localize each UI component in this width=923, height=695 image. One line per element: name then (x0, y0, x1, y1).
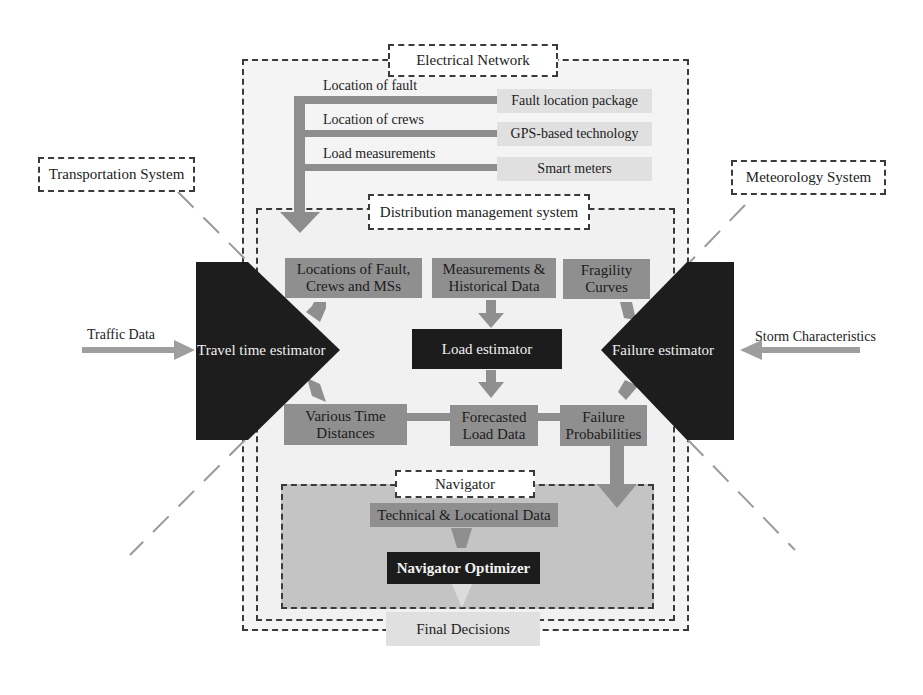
source-smart-meters: Smart meters (497, 157, 652, 181)
electrical-network-label: Electrical Network (388, 44, 558, 77)
forecasted-load-box: Forecasted Load Data (450, 405, 538, 446)
signal-load-measurements: Load measurements (323, 146, 435, 162)
source-fault-location-package: Fault location package (497, 89, 652, 113)
traffic-data-label: Traffic Data (87, 327, 155, 343)
navigator-label: Navigator (395, 470, 535, 498)
signal-location-of-fault: Location of fault (323, 78, 417, 94)
source-gps-technology: GPS-based technology (497, 122, 652, 146)
storm-characteristics-label: Storm Characteristics (755, 329, 876, 345)
failure-probabilities-box: Failure Probabilities (560, 405, 647, 446)
travel-time-estimator: Travel time estimator (197, 342, 326, 359)
technical-locational-data-box: Technical & Locational Data (370, 503, 558, 527)
final-decisions-box: Final Decisions (386, 612, 540, 646)
meteorology-system-label: Meteorology System (731, 160, 886, 195)
measurements-historical-box: Measurements & Historical Data (432, 258, 556, 298)
time-distances-box: Various Time Distances (284, 404, 407, 445)
load-estimator: Load estimator (412, 329, 562, 369)
locations-of-fault-box: Locations of Fault, Crews and MSs (285, 258, 422, 298)
transportation-system-label: Transportation System (38, 157, 195, 192)
navigator-optimizer: Navigator Optimizer (387, 552, 540, 584)
signal-location-of-crews: Location of crews (323, 112, 424, 128)
fragility-curves-box: Fragility Curves (563, 259, 650, 299)
failure-estimator: Failure estimator (612, 342, 714, 359)
dms-label: Distribution management system (368, 194, 590, 230)
